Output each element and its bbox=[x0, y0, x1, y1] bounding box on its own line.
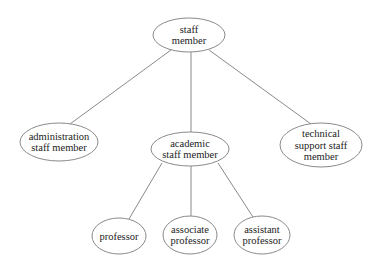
node-label-line: professor bbox=[242, 235, 282, 246]
node-label-line: support staff bbox=[295, 140, 348, 151]
node-label-line: professor bbox=[99, 231, 139, 242]
node-label-line: academic bbox=[170, 138, 210, 149]
edge-staff-member-to-technical-support-staff-member bbox=[209, 50, 311, 124]
node-technical-support-staff-member: technicalsupport staffmember bbox=[280, 123, 362, 167]
node-academic-staff-member: academicstaff member bbox=[151, 132, 229, 166]
node-label-line: technical bbox=[302, 128, 340, 139]
node-administration-staff-member: administrationstaff member bbox=[20, 123, 98, 161]
node-label-line: associate bbox=[171, 224, 209, 235]
node-label: assistantprofessor bbox=[242, 224, 282, 247]
node-label-line: assistant bbox=[244, 224, 280, 235]
node-label: administrationstaff member bbox=[29, 131, 90, 154]
node-associate-professor: associateprofessor bbox=[163, 216, 217, 254]
edge-academic-staff-member-to-assistant-professor bbox=[218, 163, 253, 217]
node-label-line: administration bbox=[29, 131, 90, 142]
edge-staff-member-to-administration-staff-member bbox=[70, 50, 171, 124]
hierarchy-diagram: staffmember administrationstaff member a… bbox=[0, 0, 379, 267]
node-label-line: member bbox=[172, 35, 207, 46]
node-assistant-professor: assistantprofessor bbox=[234, 216, 290, 254]
node-staff-member: staffmember bbox=[153, 18, 225, 52]
edge-academic-staff-member-to-professor bbox=[129, 163, 162, 219]
node-label-line: staff bbox=[180, 24, 199, 35]
node-label-line: staff member bbox=[162, 149, 218, 160]
node-label-line: member bbox=[304, 151, 339, 162]
node-label: associateprofessor bbox=[170, 224, 210, 247]
node-professor: professor bbox=[92, 218, 146, 254]
node-label-line: professor bbox=[170, 235, 210, 246]
node-label-line: staff member bbox=[31, 142, 87, 153]
node-label: professor bbox=[99, 231, 139, 242]
